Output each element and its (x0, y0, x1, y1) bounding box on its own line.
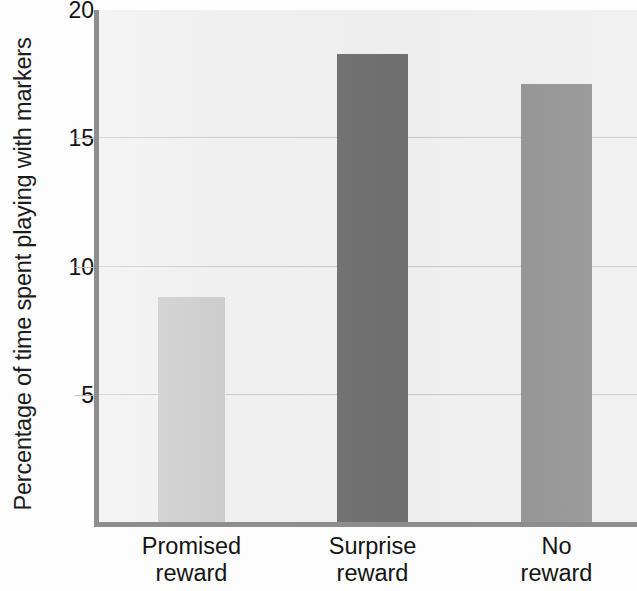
x-axis-label-line: No (457, 533, 637, 560)
y-tick-label: 20 (48, 0, 94, 22)
y-tick-mark (75, 395, 94, 396)
bar (158, 297, 225, 523)
bar (521, 84, 592, 523)
y-tick-mark (75, 138, 94, 139)
x-axis-label: Noreward (457, 533, 637, 588)
bar (337, 54, 408, 523)
x-axis-label-line: reward (457, 560, 637, 587)
x-axis-line (94, 522, 637, 527)
x-axis-label-line: reward (92, 560, 292, 587)
x-axis-label-line: reward (273, 560, 473, 587)
plot-area (99, 10, 637, 523)
y-axis-tick-group: 5101520 (21, 0, 94, 591)
x-axis-label: Promisedreward (92, 533, 292, 588)
bar-chart-figure: Percentage of time spent playing with ma… (0, 0, 637, 591)
x-axis-label-line: Promised (92, 533, 292, 560)
y-axis-line (94, 10, 99, 527)
x-axis-label: Surprisereward (273, 533, 473, 588)
x-axis-label-line: Surprise (273, 533, 473, 560)
y-tick-mark (75, 267, 94, 268)
